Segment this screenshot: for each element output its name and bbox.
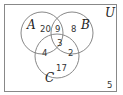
- region-c-only: 17: [56, 63, 67, 73]
- region-a-and-b: 9: [55, 24, 60, 34]
- region-outside: 5: [107, 80, 112, 90]
- set-c-label: C: [45, 71, 54, 85]
- region-a-only: 20: [40, 24, 51, 34]
- set-a-label: A: [26, 18, 36, 32]
- region-b-only: 8: [71, 24, 76, 34]
- set-b-label: B: [80, 18, 90, 32]
- region-b-and-c: 2: [68, 48, 73, 58]
- region-a-b-c: 3: [57, 38, 62, 48]
- venn-diagram: U A B C 20 9 8 3 4 2 17 5: [0, 0, 123, 95]
- region-a-and-c: 4: [42, 48, 47, 58]
- universe-label: U: [105, 6, 116, 20]
- universe-rectangle: [5, 5, 117, 92]
